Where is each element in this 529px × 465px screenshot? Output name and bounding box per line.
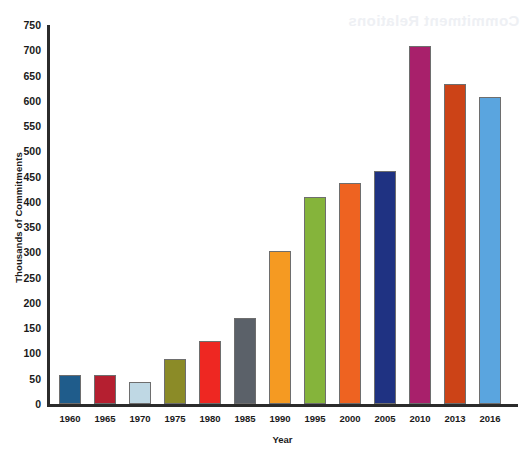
- y-tick-label: 500: [23, 145, 41, 157]
- y-tick-label: 600: [23, 95, 41, 107]
- y-tick-label: 450: [23, 171, 41, 183]
- y-tick-label: 100: [23, 347, 41, 359]
- bar: [479, 97, 501, 404]
- y-tick-label: 400: [23, 196, 41, 208]
- y-axis-line: [47, 25, 50, 407]
- x-tick-label: 1960: [50, 413, 90, 424]
- x-tick-label: 1970: [120, 413, 160, 424]
- x-tick-label: 1980: [190, 413, 230, 424]
- x-axis-title: Year: [47, 434, 518, 445]
- y-tick-label: 550: [23, 120, 41, 132]
- bar: [374, 171, 396, 404]
- x-tick-label: 1975: [155, 413, 195, 424]
- bar: [199, 341, 221, 404]
- plot-area: 7507006506005505004504003503002502001501…: [47, 25, 518, 404]
- x-tick-label: 1990: [260, 413, 300, 424]
- y-tick-label: 350: [23, 221, 41, 233]
- x-tick-label: 1995: [295, 413, 335, 424]
- bar: [234, 318, 256, 404]
- bar-chart-figure: Thousands of Commitments 750700650600550…: [0, 0, 529, 465]
- x-tick-label: 2000: [330, 413, 370, 424]
- y-tick-label: 0: [35, 398, 41, 410]
- x-tick-label: 2013: [435, 413, 475, 424]
- bar: [59, 375, 81, 404]
- y-tick-label: 200: [23, 297, 41, 309]
- x-tick-label: 2016: [470, 413, 510, 424]
- y-tick-label: 300: [23, 246, 41, 258]
- x-tick-label: 1965: [85, 413, 125, 424]
- y-tick-label: 150: [23, 322, 41, 334]
- x-tick-label: 1985: [225, 413, 265, 424]
- y-tick-label: 700: [23, 44, 41, 56]
- y-tick-label: 750: [23, 19, 41, 31]
- bar: [444, 84, 466, 404]
- bar: [304, 197, 326, 404]
- x-tick-label: 2005: [365, 413, 405, 424]
- x-axis-line: [47, 404, 518, 407]
- bar: [129, 382, 151, 404]
- bar: [164, 359, 186, 404]
- y-axis-title: Thousands of Commitments: [13, 128, 24, 308]
- bar: [339, 183, 361, 404]
- y-tick-label: 650: [23, 70, 41, 82]
- bar: [409, 46, 431, 404]
- bar: [94, 375, 116, 404]
- y-tick-label: 50: [29, 373, 41, 385]
- x-tick-label: 2010: [400, 413, 440, 424]
- y-tick-label: 250: [23, 272, 41, 284]
- bar: [269, 251, 291, 404]
